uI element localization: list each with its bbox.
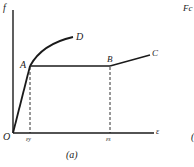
adjacent-panel-axis-label: Fc — [183, 4, 193, 13]
adjacent-panel-caption-fragment: ( — [191, 132, 194, 142]
point-c-label: C — [152, 49, 158, 58]
point-d-label: D — [76, 32, 83, 42]
point-a-label: A — [20, 60, 26, 70]
y-axis-label: f — [3, 3, 6, 13]
tick-epsilon-s: εs — [106, 136, 111, 142]
point-b-label: B — [107, 55, 113, 64]
segment-oa — [13, 66, 30, 133]
origin-label: O — [3, 132, 10, 142]
segment-bc — [110, 55, 150, 66]
stress-strain-diagram: f O A D B C εy εs ε (a) Fc ( — [0, 0, 194, 167]
curve-ad — [30, 37, 73, 66]
tick-epsilon-y: εy — [26, 136, 31, 142]
figure-caption: (a) — [66, 150, 78, 160]
x-axis-label: ε — [156, 128, 159, 136]
